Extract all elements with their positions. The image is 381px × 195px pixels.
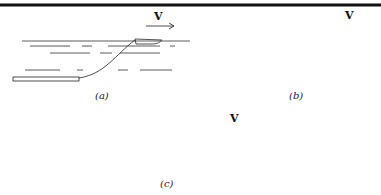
towing-diagram: V (a) V (b) V (c)	[0, 0, 381, 195]
diagram-drawing	[0, 0, 381, 195]
velocity-label-a: V	[154, 10, 163, 23]
velocity-label-b: V	[345, 9, 354, 22]
velocity-label-c: V	[230, 112, 239, 125]
panel-label-c: (c)	[160, 178, 173, 189]
panel-a	[13, 23, 190, 81]
panel-label-a: (a)	[95, 90, 109, 101]
panel-label-b: (b)	[289, 90, 303, 101]
